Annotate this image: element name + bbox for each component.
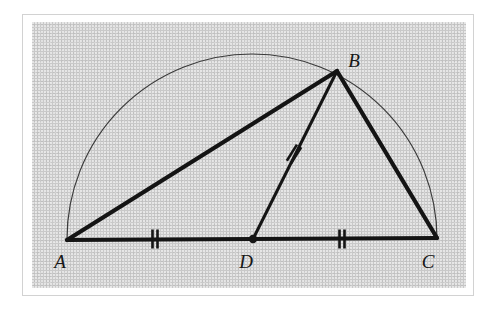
point-label-a: A: [52, 251, 66, 272]
geometry-diagram: A B C D: [32, 22, 466, 288]
point-label-c: C: [422, 251, 435, 272]
figure-plate: A B C D: [32, 22, 466, 288]
congruence-tick-marks: [153, 145, 345, 249]
figure-page: A B C D: [0, 0, 498, 319]
point-label-b: B: [348, 50, 360, 71]
segment-bc: [337, 71, 437, 238]
point-d-dot: [249, 235, 257, 243]
point-label-d: D: [238, 251, 253, 272]
